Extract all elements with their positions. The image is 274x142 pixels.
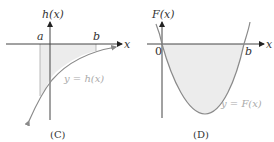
y-axis-label-c: h(x) — [42, 8, 64, 21]
x-axis-label-d: x — [266, 38, 273, 51]
shaded-region-c — [40, 44, 96, 96]
caption-c: (C) — [50, 129, 66, 140]
panel-d: F(x) x 0 b y = F(x) (D) — [147, 8, 273, 140]
curve-label-d: y = F(x) — [220, 98, 262, 109]
point-label-b: b — [93, 30, 100, 43]
curve-label-c: y = h(x) — [63, 73, 104, 84]
point-label-a: a — [37, 30, 44, 43]
y-axis-label-d: F(x) — [151, 8, 174, 21]
point-label-0: 0 — [155, 45, 162, 58]
diagram-canvas: h(x) x a b y = h(x) (C) F(x) x 0 b y = F… — [0, 0, 274, 142]
panel-c: h(x) x a b y = h(x) (C) — [6, 8, 131, 140]
point-label-b-d: b — [245, 45, 252, 58]
caption-d: (D) — [193, 129, 209, 140]
x-axis-label-c: x — [124, 38, 131, 51]
